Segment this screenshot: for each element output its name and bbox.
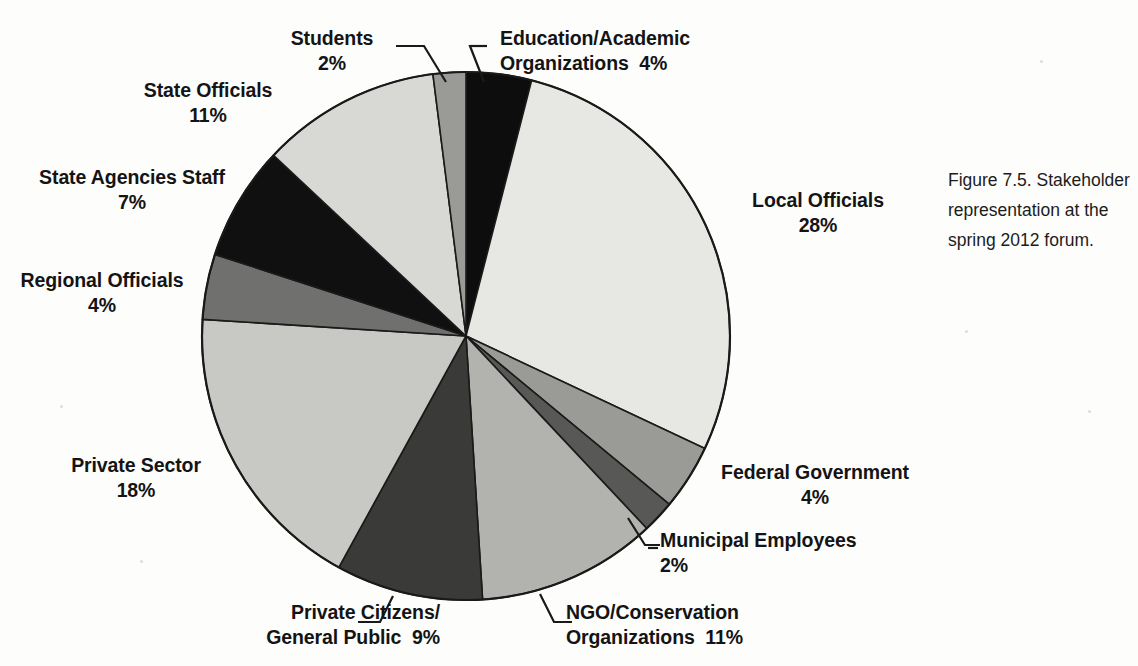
pie-slice-group: Education/Academic Organizations 4%Local…: [202, 72, 730, 600]
slice-label-state-officials: State Officials 11%: [108, 78, 308, 129]
figure-page: Education/Academic Organizations 4%Local…: [0, 0, 1138, 666]
slice-label-state-agencies-staff: State Agencies Staff 7%: [12, 165, 252, 216]
slice-label-ngo-conservation: NGO/Conservation Organizations 11%: [566, 600, 856, 651]
slice-label-municipal-employees: Municipal Employees 2%: [660, 528, 930, 579]
slice-label-students: Students 2%: [252, 26, 412, 77]
slice-label-regional-officials: Regional Officials 4%: [2, 268, 202, 319]
slice-label-private-sector: Private Sector 18%: [36, 453, 236, 504]
paper-speck: [1040, 60, 1043, 63]
slice-label-local-officials: Local Officials 28%: [728, 188, 908, 239]
pie-chart-area: Education/Academic Organizations 4%Local…: [0, 0, 920, 666]
figure-caption: Figure 7.5. Stakeholder representation a…: [948, 165, 1133, 255]
slice-label-education-academic: Education/Academic Organizations 4%: [500, 26, 750, 77]
paper-speck: [965, 330, 968, 333]
slice-label-federal-government: Federal Government 4%: [700, 460, 930, 511]
slice-label-private-citizens: Private Citizens/ General Public 9%: [170, 600, 440, 651]
paper-speck: [1088, 410, 1091, 413]
